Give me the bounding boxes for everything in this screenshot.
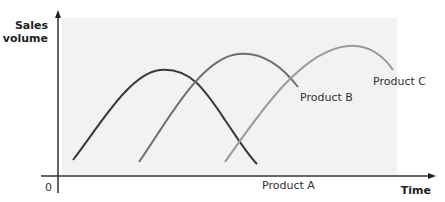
y-axis-label-line2: volume: [3, 32, 48, 45]
x-axis-arrow-icon: [428, 173, 436, 179]
label-product-c: Product C: [373, 75, 426, 88]
label-product-a: Product A: [262, 179, 315, 192]
x-axis-label: Time: [401, 184, 431, 197]
y-axis-label-line1: Sales: [15, 19, 49, 32]
y-axis-arrow-icon: [55, 10, 61, 18]
label-product-b: Product B: [300, 91, 353, 104]
product-lifecycle-chart: Product A Product B Product C Sales volu…: [0, 0, 445, 202]
origin-label: 0: [45, 181, 52, 194]
